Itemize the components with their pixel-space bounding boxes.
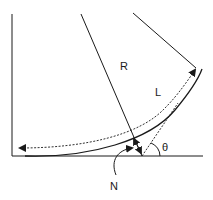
curve	[25, 69, 202, 156]
radius-label: R	[120, 60, 128, 72]
arc-length-label: L	[155, 86, 161, 98]
radius-line-2	[133, 13, 196, 68]
normal-double-arrow	[134, 139, 141, 153]
normal-point-label: N	[110, 180, 118, 192]
arc-length-arrow	[20, 70, 195, 148]
angle-arc	[151, 143, 160, 156]
radius-line-1	[81, 14, 142, 156]
curve-geometry-diagram: R L θ N	[0, 0, 213, 200]
chord-line	[142, 103, 178, 156]
angle-label: θ	[162, 141, 168, 153]
normal-pointer	[114, 148, 132, 175]
